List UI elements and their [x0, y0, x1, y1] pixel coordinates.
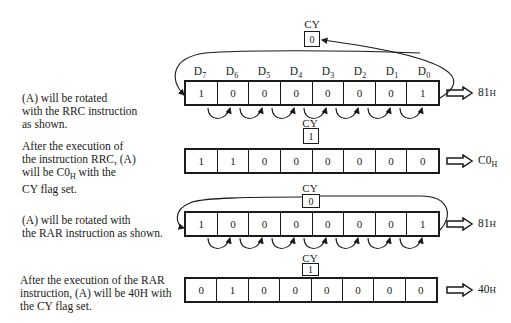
d0-to-cy-arrow-icon — [322, 40, 454, 98]
d0-to-d7-wrap-arrow-icon — [175, 51, 420, 95]
d0-to-cy-rar-arrow-icon — [320, 196, 447, 230]
rotation-arrows — [0, 0, 511, 323]
cy-to-d7-rar-arrow-icon — [177, 197, 302, 228]
